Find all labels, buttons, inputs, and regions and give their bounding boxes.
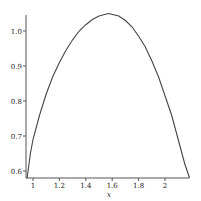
y-tick-label: 0.6 — [11, 168, 23, 176]
x-tick-label: 2 — [163, 182, 167, 190]
x-ticks: 11.21.41.61.82 — [31, 178, 167, 190]
x-axis-title: x — [107, 191, 111, 199]
line-chart: 11.21.41.61.82 0.60.70.80.91.0 x — [0, 0, 201, 201]
x-tick-label: 1.6 — [107, 182, 119, 190]
y-ticks: 0.60.70.80.91.0 — [11, 28, 26, 176]
y-tick-label: 1.0 — [11, 28, 22, 36]
axes — [26, 15, 189, 178]
x-tick-label: 1.8 — [133, 182, 144, 190]
x-tick-label: 1 — [31, 182, 35, 190]
data-series-line — [27, 14, 190, 179]
x-tick-label: 1.2 — [54, 182, 65, 190]
x-tick-label: 1.4 — [80, 182, 92, 190]
y-tick-label: 0.7 — [11, 133, 22, 141]
y-tick-label: 0.8 — [11, 98, 22, 106]
y-tick-label: 0.9 — [11, 63, 22, 71]
